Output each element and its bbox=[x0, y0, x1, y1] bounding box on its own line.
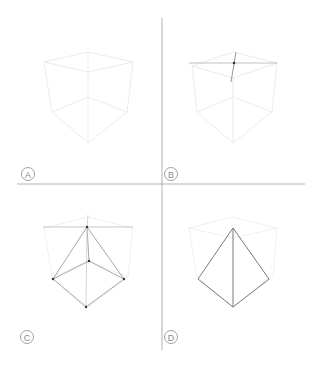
svg-text:C: C bbox=[24, 333, 31, 343]
svg-text:B: B bbox=[168, 170, 174, 180]
panel-b-label: B bbox=[165, 168, 178, 181]
svg-text:A: A bbox=[25, 170, 31, 180]
tetrahedron-construction-diagram: A B bbox=[0, 0, 321, 370]
panel-d-tetrahedron bbox=[198, 228, 269, 307]
panel-b-cube bbox=[192, 52, 277, 143]
panel-a-cube bbox=[44, 52, 133, 143]
svg-text:D: D bbox=[168, 333, 175, 343]
panel-b-guides bbox=[189, 52, 277, 82]
panel-d-label: D bbox=[165, 331, 178, 344]
panel-c-points bbox=[52, 226, 125, 308]
panel-c-label: C bbox=[21, 331, 34, 344]
panel-a-label: A bbox=[22, 168, 35, 181]
